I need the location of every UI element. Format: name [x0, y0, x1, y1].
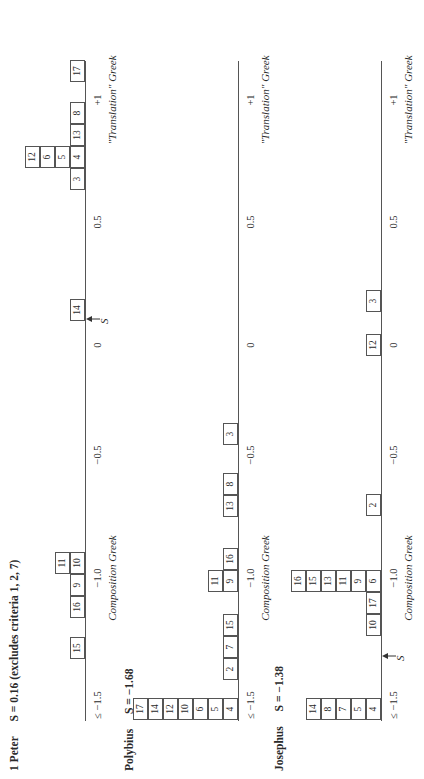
item-box: 12	[25, 146, 40, 168]
item-box: 2	[366, 494, 381, 516]
tick-label: 0.5	[245, 215, 256, 228]
tick-label: −1.0	[245, 568, 256, 587]
item-box: 8	[321, 698, 336, 720]
tick-label: 0.5	[92, 215, 103, 228]
item-box: 15	[70, 637, 85, 659]
item-box: 12	[163, 698, 178, 720]
item-box: 5	[208, 698, 223, 720]
panel-josephus: Josephus S = −1.38 4 5 7 8 14 10 17 6 9 …	[273, 0, 424, 779]
item-box: 4	[223, 698, 238, 720]
item-box: 11	[336, 570, 351, 592]
panel-s-value: S = 0.16 (excludes criteria 1, 2, 7)	[8, 560, 20, 722]
panel-name: 1 Peter	[8, 736, 20, 771]
item-box: 7	[223, 636, 238, 658]
s-marker-label: S	[98, 319, 110, 325]
tick-label: −0.5	[388, 445, 399, 464]
translation-greek-caption: "Translation" Greek	[402, 55, 414, 144]
tick-label: −1.0	[92, 568, 103, 587]
item-box: 17	[70, 60, 85, 82]
translation-greek-caption: "Translation" Greek	[106, 55, 118, 144]
tick-label: −1.0	[388, 568, 399, 587]
tick-label: +1	[388, 94, 399, 105]
item-box: 5	[55, 146, 70, 168]
panel-s-value: S = −1.38	[273, 666, 285, 711]
panel-title: 1 Peter S = 0.16 (excludes criteria 1, 2…	[8, 560, 20, 771]
item-box: 11	[55, 552, 70, 574]
tick-label: +1	[92, 94, 103, 105]
tick-label: 0	[92, 342, 103, 347]
composition-greek-caption: Composition Greek	[259, 535, 271, 620]
panel-name: Josephus	[273, 726, 285, 771]
item-box: 15	[223, 614, 238, 636]
composition-greek-caption: Composition Greek	[402, 535, 414, 620]
item-box: 4	[366, 698, 381, 720]
composition-greek-caption: Composition Greek	[106, 535, 118, 620]
item-box: 13	[70, 124, 85, 146]
item-box: 10	[70, 552, 85, 574]
item-box: 3	[70, 168, 85, 190]
item-box: 14	[70, 299, 85, 321]
panel-name: Polybius	[123, 729, 135, 771]
item-box: 3	[366, 290, 381, 312]
x-axis	[85, 61, 86, 721]
item-box: 6	[193, 698, 208, 720]
item-box: 9	[223, 570, 238, 592]
tick-label: 0	[388, 342, 399, 347]
item-box: 16	[70, 596, 85, 618]
item-box: 8	[70, 102, 85, 124]
item-box: 2	[223, 658, 238, 680]
panel-1-peter: 1 Peter S = 0.16 (excludes criteria 1, 2…	[0, 0, 130, 779]
tick-label: −0.5	[245, 445, 256, 464]
item-box: 14	[306, 698, 321, 720]
tick-label: ≤ −1.5	[388, 691, 399, 718]
tick-label: 0	[245, 342, 256, 347]
tick-label: +1	[245, 94, 256, 105]
item-box: 5	[351, 698, 366, 720]
rotated-figure: 1 Peter S = 0.16 (excludes criteria 1, 2…	[0, 0, 424, 779]
x-axis	[238, 61, 239, 721]
panel-title: Josephus S = −1.38	[273, 666, 285, 771]
item-box: 14	[148, 698, 163, 720]
item-box: 4	[70, 146, 85, 168]
item-box: 12	[366, 334, 381, 356]
item-box: 9	[70, 574, 85, 596]
tick-label: ≤ −1.5	[245, 691, 256, 718]
item-box: 11	[208, 570, 223, 592]
item-box: 8	[223, 473, 238, 495]
item-box: 17	[366, 592, 381, 614]
item-box: 15	[306, 570, 321, 592]
item-box: 16	[291, 570, 306, 592]
item-box: 10	[366, 614, 381, 636]
item-box: 17	[133, 698, 148, 720]
panel-polybius: Polybius S = −1.68 4 5 6 10 12 14 17 2 7…	[123, 0, 263, 779]
item-box: 13	[321, 570, 336, 592]
tick-label: 0.5	[388, 215, 399, 228]
item-box: 6	[40, 146, 55, 168]
item-box: 10	[178, 698, 193, 720]
translation-greek-caption: "Translation" Greek	[259, 55, 271, 144]
item-box: 13	[223, 495, 238, 517]
x-axis	[381, 61, 382, 721]
s-marker-label: S	[394, 656, 406, 662]
tick-label: −0.5	[92, 445, 103, 464]
tick-label: ≤ −1.5	[92, 691, 103, 718]
item-box: 6	[366, 570, 381, 592]
item-box: 7	[336, 698, 351, 720]
item-box: 16	[223, 548, 238, 570]
item-box: 9	[351, 570, 366, 592]
item-box: 3	[223, 423, 238, 445]
